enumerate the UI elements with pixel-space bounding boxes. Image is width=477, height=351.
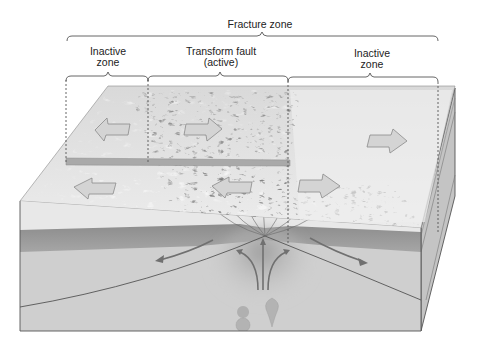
transform-fault-label-group: Transform fault (active) bbox=[148, 45, 288, 81]
fracture-zone-label: Fracture zone bbox=[228, 18, 293, 30]
inactive-zone-left-label-group: Inactive zone bbox=[66, 45, 148, 81]
inactive-zone-right-line2: zone bbox=[361, 58, 384, 70]
transform-fault-line2: (active) bbox=[204, 56, 238, 68]
inactive-zone-left-line2: zone bbox=[97, 56, 120, 68]
magma-plume bbox=[212, 225, 312, 315]
inactive-zone-right-bracket bbox=[288, 73, 438, 82]
transform-fault-bracket bbox=[148, 72, 288, 81]
fracture-zone-bracket bbox=[67, 32, 438, 41]
fracture-zone-label-group: Fracture zone bbox=[67, 18, 438, 41]
transform-fault-diagram: Fracture zone Inactive zone Transform fa… bbox=[0, 0, 477, 351]
inactive-zone-right-label-group: Inactive zone bbox=[288, 47, 438, 82]
inactive-zone-left-bracket bbox=[66, 72, 148, 81]
